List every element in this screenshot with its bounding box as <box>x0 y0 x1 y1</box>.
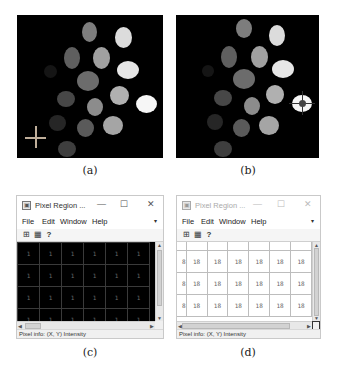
pixel-value: 18 <box>270 295 291 317</box>
pixel-value: 1 <box>40 265 62 287</box>
maximize-button[interactable]: ☐ <box>277 199 285 209</box>
cell-blob <box>117 61 139 79</box>
pixel-value: 1 <box>84 265 106 287</box>
pixel-value: 18 <box>249 273 270 295</box>
cell-blob <box>136 95 157 113</box>
vertical-scrollbar[interactable]: ▲ ▼ <box>155 242 163 321</box>
pixel-value: 8 <box>177 295 186 317</box>
help-icon[interactable]: ? <box>45 231 53 239</box>
pixel-grid-icon[interactable]: ⊞ <box>22 231 30 239</box>
close-button[interactable]: ✕ <box>304 199 312 209</box>
image-panel-a <box>17 15 163 158</box>
menu-file[interactable]: File <box>182 217 194 226</box>
minimize-button[interactable]: — <box>253 199 262 209</box>
cell-blob <box>58 141 76 157</box>
menu-edit[interactable]: Edit <box>201 217 214 226</box>
pixel-region-window-c: ▣ Pixel Region ... — ☐ ✕ File Edit Windo… <box>16 195 164 339</box>
pixel-grid-icon[interactable]: ⊞ <box>182 231 190 239</box>
pixel-value <box>291 242 312 251</box>
pixel-value: 1 <box>18 243 40 265</box>
pixel-value: 1 <box>128 309 150 322</box>
cell-blob <box>244 97 260 115</box>
status-bar: Pixel info: (X, Y) Intensity <box>17 329 163 338</box>
pixel-value: 1 <box>62 243 84 265</box>
title-bar[interactable]: ▣ Pixel Region ... — ☐ ✕ <box>177 196 320 215</box>
pixel-value: 18 <box>270 273 291 295</box>
vertical-scroll-thumb[interactable] <box>314 248 319 316</box>
cell-blob <box>77 119 94 137</box>
pixel-value: 18 <box>207 295 228 317</box>
pixel-value: 18 <box>249 251 270 273</box>
pixel-value: 1 <box>84 309 106 322</box>
menu-window[interactable]: Window <box>60 217 87 226</box>
cell-blob <box>202 65 214 77</box>
pixel-value: 18 <box>228 273 249 295</box>
caption-a: (a) <box>60 164 120 177</box>
pixel-value <box>249 242 270 251</box>
pixel-value: 1 <box>62 309 84 322</box>
grid-row: 8 18 18 18 18 18 18 <box>177 251 312 273</box>
menu-edit[interactable]: Edit <box>42 217 55 226</box>
status-bar: Pixel info: (X, Y) Intensity <box>177 329 320 338</box>
pixel-value: 18 <box>291 273 312 295</box>
pixel-value: 1 <box>18 287 40 309</box>
pixel-value: 1 <box>40 309 62 322</box>
cell-blob <box>57 91 75 107</box>
maximize-button[interactable]: ☐ <box>120 199 128 209</box>
copy-icon[interactable]: ▦ <box>194 231 202 239</box>
cell-blob <box>233 119 250 137</box>
help-icon[interactable]: ? <box>205 231 213 239</box>
dock-icon[interactable]: ▾ <box>311 217 314 224</box>
pixel-value: 1 <box>128 265 150 287</box>
grid-row: 8 18 18 18 18 18 18 <box>177 295 312 317</box>
cell-blob <box>64 47 80 69</box>
caption-c: (c) <box>60 346 120 359</box>
grid-row <box>177 242 312 251</box>
pixel-value: 1 <box>40 243 62 265</box>
title-bar[interactable]: ▣ Pixel Region ... — ☐ ✕ <box>17 196 163 215</box>
pixel-value: 1 <box>106 309 128 322</box>
cell-blob <box>233 69 255 89</box>
pixel-value: 1 <box>106 287 128 309</box>
cell-blob <box>259 116 279 135</box>
pixel-value <box>228 242 249 251</box>
vertical-scrollbar[interactable]: ▲ ▼ <box>312 242 320 321</box>
menu-window[interactable]: Window <box>219 217 246 226</box>
pixel-value: 1 <box>62 287 84 309</box>
copy-icon[interactable]: ▦ <box>34 231 42 239</box>
menu-bar: File Edit Window Help ▾ <box>17 215 163 229</box>
grid-row: 8 18 18 18 18 18 18 <box>177 273 312 295</box>
pixel-value: 1 <box>62 265 84 287</box>
scroll-up-icon[interactable]: ▲ <box>157 242 162 248</box>
minimize-button[interactable]: — <box>97 199 106 209</box>
app-icon: ▣ <box>182 201 191 210</box>
close-button[interactable]: ✕ <box>147 199 155 209</box>
pixel-value: 1 <box>106 265 128 287</box>
menu-help[interactable]: Help <box>92 217 107 226</box>
cell-blob <box>44 65 57 78</box>
caption-d: (d) <box>218 346 278 359</box>
pixel-value: 18 <box>291 295 312 317</box>
toolbar: ⊞ ▦ ? <box>17 229 163 242</box>
grid-row: 1 1 1 1 1 1 <box>18 265 150 287</box>
grid-row: 1 1 1 1 1 1 <box>18 287 150 309</box>
pixel-value: 8 <box>177 251 186 273</box>
cell-blob <box>207 114 223 130</box>
pixel-grid: 8 18 18 18 18 18 18 8 18 18 18 18 18 18 … <box>177 242 312 321</box>
pixel-value: 18 <box>228 295 249 317</box>
window-title: Pixel Region ... <box>35 201 85 210</box>
pixel-grid: 1 1 1 1 1 1 1 1 1 1 1 1 1 1 1 1 1 1 <box>17 242 155 321</box>
pixel-value: 1 <box>106 243 128 265</box>
cell-blob <box>236 19 252 38</box>
pixel-value: 18 <box>186 295 207 317</box>
grid-row: 1 1 1 1 1 1 <box>18 243 150 265</box>
menu-bar: File Edit Window Help ▾ <box>177 215 320 229</box>
vertical-scroll-thumb[interactable] <box>157 250 162 306</box>
pixel-value: 1 <box>18 309 40 322</box>
menu-help[interactable]: Help <box>251 217 266 226</box>
pixel-value: 18 <box>291 251 312 273</box>
pixel-value: 18 <box>207 273 228 295</box>
menu-file[interactable]: File <box>22 217 34 226</box>
dock-icon[interactable]: ▾ <box>154 217 157 224</box>
pixel-value: 1 <box>128 287 150 309</box>
